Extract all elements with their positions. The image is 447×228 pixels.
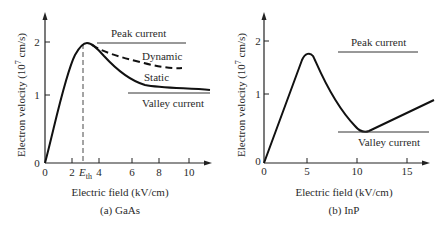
- eth-label: Eth: [78, 166, 92, 181]
- y-axis-label: Electron velocity (107 cm/s): [234, 33, 248, 157]
- x-tick-label: 0: [261, 165, 267, 177]
- x-tick-label: 15: [402, 165, 414, 177]
- y-tick-label: 1: [255, 88, 261, 100]
- y-tick-label: 0: [34, 157, 40, 169]
- x-tick-label: 8: [156, 166, 162, 178]
- y-tick-label: 2: [34, 36, 40, 48]
- static-label: Static: [144, 71, 169, 83]
- x-tick-label: 6: [129, 166, 135, 178]
- x-tick-label: 10: [352, 165, 364, 177]
- x-axis-label: Electric field (kV/cm): [295, 186, 392, 199]
- panel-caption: (a) GaAs: [100, 204, 140, 217]
- y-axis-arrow-icon: [43, 12, 48, 20]
- y-axis-label: Electron velocity (107 cm/s): [14, 33, 28, 157]
- y-tick-label: 2: [255, 35, 261, 47]
- peak-current-label: Peak current: [351, 36, 406, 48]
- panel-inp: 2 1 0 0 5 10 15 Peak current Valley curr…: [234, 12, 434, 217]
- x-tick-label: 0: [42, 166, 48, 178]
- x-tick-label: 4: [96, 166, 102, 178]
- x-tick-label: 2: [69, 166, 75, 178]
- panel-caption: (b) InP: [329, 204, 360, 217]
- valley-current-label: Valley current: [358, 136, 420, 148]
- x-tick-label: 10: [184, 166, 196, 178]
- figure-canvas: 2 1 0 0 2 4 6 8 10 Eth Peak current Dyna…: [0, 0, 447, 228]
- x-tick-label: 5: [304, 165, 310, 177]
- x-axis-arrow-icon: [204, 161, 212, 166]
- panel-gaas: 2 1 0 0 2 4 6 8 10 Eth Peak current Dyna…: [14, 12, 212, 217]
- x-axis-arrow-icon: [422, 161, 430, 166]
- y-tick-label: 1: [34, 89, 40, 101]
- peak-current-label: Peak current: [111, 27, 166, 39]
- valley-current-label: Valley current: [142, 97, 204, 109]
- dynamic-label: Dynamic: [142, 50, 182, 62]
- y-axis-arrow-icon: [262, 12, 267, 20]
- x-axis-label: Electric field (kV/cm): [71, 186, 168, 199]
